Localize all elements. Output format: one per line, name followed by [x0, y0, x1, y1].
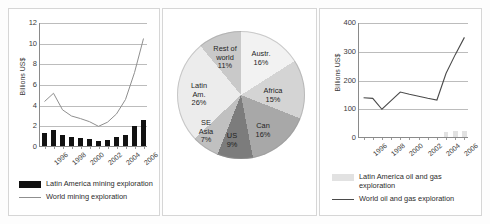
pie-label-can-value: 16% [256, 131, 271, 140]
y-tick-label: 400 [343, 19, 356, 27]
legend-label-line1: Latin America oil and gas [359, 172, 442, 181]
legend-item-latin-america-oil-gas[interactable]: Latin America oil and gas exploration [332, 172, 478, 191]
legend-line-swatch-icon [19, 193, 41, 202]
figure-root: Billions US$ 024681012 19961998200020022… [0, 0, 490, 224]
x-tick-label: 2004 [445, 142, 461, 157]
x-tick-label: 2002 [426, 142, 442, 157]
legend-item-latin-america-mining[interactable]: Latin America mining exploration [19, 179, 157, 189]
y-tick-label: 0 [33, 143, 37, 151]
pie-label-africa-value: 15% [264, 96, 283, 105]
panel-oil-gas-exploration: Billions US$ 0100200300400 1996199820002… [319, 8, 482, 216]
line-path [364, 37, 465, 109]
legend-bar-swatch-icon [19, 180, 41, 189]
right-plot-area: Billions US$ 0100200300400 1996199820002… [358, 23, 468, 138]
x-tick-mark [391, 138, 392, 140]
x-tick-mark [144, 147, 145, 149]
x-tick-label: 1998 [390, 142, 406, 157]
pie-label-latin-am: Latin Am. 26% [191, 82, 207, 108]
x-tick-mark [437, 138, 438, 140]
y-tick-label: 6 [33, 81, 37, 89]
x-tick-mark [373, 138, 374, 140]
x-tick-mark [45, 147, 46, 149]
pie-label-austr: Austr. 16% [252, 50, 271, 67]
x-tick-mark [428, 138, 429, 140]
x-tick-mark [446, 138, 447, 140]
x-tick-mark [63, 147, 64, 149]
x-tick-mark [409, 138, 410, 140]
x-tick-label: 2002 [106, 151, 122, 166]
x-tick-mark [117, 147, 118, 149]
pie-label-rest-of-world: Rest of world 11% [213, 45, 236, 71]
y-tick-label: 4 [33, 102, 37, 110]
x-tick-mark [108, 147, 109, 149]
pie-label-rest-value: 11% [213, 62, 236, 71]
pie-label-latin-am-value: 26% [191, 99, 207, 108]
x-tick-mark [99, 147, 100, 149]
legend-label: World oil and gas exploration [359, 194, 478, 203]
x-tick-mark [81, 147, 82, 149]
x-tick-label: 2004 [124, 151, 140, 166]
pie-label-africa: Africa 15% [264, 87, 283, 104]
x-tick-mark [464, 138, 465, 140]
x-tick-label: 1998 [70, 151, 86, 166]
legend-item-world-mining[interactable]: World mining exploration [19, 192, 157, 202]
panel-latin-america-share: Austr. 16% Africa 15% Can 16% US 9% SE A… [162, 8, 317, 216]
left-line-series [40, 23, 148, 147]
y-tick-label: 100 [343, 106, 356, 114]
y-tick-label: 12 [29, 19, 37, 27]
x-tick-label: 2000 [88, 151, 104, 166]
right-y-axis-title: Billions US$ [334, 45, 341, 101]
legend-line-swatch-icon [332, 195, 354, 204]
pie-chart: Austr. 16% Africa 15% Can 16% US 9% SE A… [177, 31, 305, 159]
pie-label-us-value: 9% [227, 141, 238, 150]
left-y-axis-title: Billions US$ [19, 49, 26, 105]
x-tick-label: 1996 [371, 142, 387, 157]
legend-bar-swatch-icon [332, 173, 354, 182]
pie-label-austr-value: 16% [252, 59, 271, 68]
legend-label: Latin America mining exploration [46, 179, 157, 188]
x-tick-mark [72, 147, 73, 149]
x-tick-mark [54, 147, 55, 149]
y-tick-label: 200 [343, 77, 356, 85]
panel-mining-exploration: Billions US$ 024681012 19961998200020022… [8, 8, 160, 216]
x-tick-label: 2006 [142, 151, 158, 166]
pie-label-us: US 9% [227, 132, 238, 149]
right-legend: Latin America oil and gas exploration Wo… [332, 172, 478, 207]
x-tick-label: 2006 [463, 142, 479, 157]
x-tick-label: 2000 [408, 142, 424, 157]
legend-label-line2: exploration [359, 181, 395, 190]
x-tick-mark [382, 138, 383, 140]
legend-item-world-oil-gas[interactable]: World oil and gas exploration [332, 194, 478, 204]
x-tick-mark [419, 138, 420, 140]
pie-label-se-asia-value: 7% [199, 136, 213, 145]
y-tick-label: 0 [352, 134, 356, 142]
line-path [45, 39, 144, 127]
y-tick-label: 300 [343, 48, 356, 56]
x-tick-mark [455, 138, 456, 140]
y-tick-label: 10 [29, 40, 37, 48]
left-legend: Latin America mining exploration World m… [19, 179, 157, 205]
x-tick-mark [135, 147, 136, 149]
x-tick-mark [400, 138, 401, 140]
legend-label: World mining exploration [46, 192, 157, 201]
left-plot-area: Billions US$ 024681012 19961998200020022… [39, 23, 147, 147]
x-tick-mark [364, 138, 365, 140]
pie-label-se-asia: SE Asia 7% [199, 119, 213, 145]
y-tick-label: 2 [33, 123, 37, 131]
pie-label-can: Can 16% [256, 122, 271, 139]
x-tick-label: 1996 [52, 151, 68, 166]
y-tick-label: 8 [33, 61, 37, 69]
x-tick-mark [126, 147, 127, 149]
x-tick-mark [90, 147, 91, 149]
right-line-series [359, 23, 469, 138]
